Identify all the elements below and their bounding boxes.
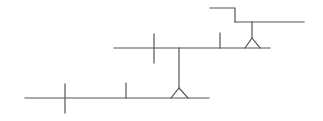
top-support-triangle-icon (245, 38, 260, 48)
middle-support-triangle-icon (171, 88, 188, 98)
step-inlet-line (210, 8, 235, 22)
cascading-line-diagram (0, 0, 323, 121)
bottom-level (25, 83, 209, 113)
middle-level (114, 33, 270, 98)
top-level (210, 8, 304, 48)
